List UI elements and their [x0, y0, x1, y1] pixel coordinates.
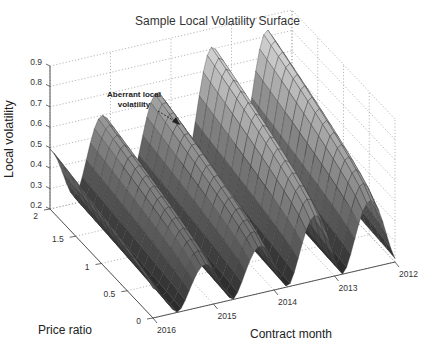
z-axis-label: Local volatility — [2, 100, 16, 178]
y-tick-mark — [70, 236, 76, 237]
z-tick-label: 0.3 — [30, 180, 42, 190]
y-tick-label: 1 — [85, 262, 90, 272]
z-tick-label: 0.5 — [30, 139, 42, 149]
y-tick-mark — [96, 264, 102, 265]
z-tick-label: 0.7 — [30, 98, 42, 108]
chart-title: Sample Local Volatility Surface — [0, 14, 435, 28]
y-tick-label: 1.5 — [52, 234, 64, 244]
x-tick-mark — [214, 304, 218, 309]
surface-patch — [384, 239, 395, 259]
annotation-line-1: Aberrant local — [95, 90, 173, 100]
x-tick-mark — [335, 276, 339, 281]
annotation-line-2: volatility — [95, 100, 173, 110]
x-tick-label: 2016 — [157, 325, 176, 335]
y-tick-label: 0.5 — [103, 289, 115, 299]
x-tick-mark — [274, 290, 278, 295]
z-tick-label: 0.2 — [30, 200, 42, 210]
y-tick-mark — [44, 209, 50, 210]
y-tick-label: 0 — [136, 316, 141, 326]
z-tick-mark — [46, 187, 50, 189]
z-tick-label: 0.4 — [30, 159, 42, 169]
y-tick-mark — [121, 291, 127, 292]
z-tick-label: 0.9 — [30, 57, 42, 67]
z-tick-mark — [46, 166, 50, 168]
z-tick-label: 0.8 — [30, 77, 42, 87]
surface-plot-canvas: 0.20.30.40.50.60.70.80.900.511.522016201… — [0, 0, 435, 355]
y-tick-mark — [147, 318, 153, 319]
z-tick-mark — [46, 84, 50, 86]
y-axis-label: Price ratio — [38, 323, 92, 337]
x-tick-label: 2013 — [339, 283, 358, 293]
x-tick-label: 2014 — [278, 297, 297, 307]
z-tick-mark — [46, 64, 50, 66]
y-tick-label: 2 — [33, 211, 38, 221]
x-axis-label: Contract month — [250, 327, 332, 341]
x-tick-label: 2012 — [399, 269, 418, 279]
z-tick-mark — [46, 125, 50, 127]
z-tick-label: 0.6 — [30, 118, 42, 128]
z-tick-mark — [46, 105, 50, 107]
x-tick-label: 2015 — [218, 311, 237, 321]
x-tick-mark — [395, 262, 399, 267]
z-tick-mark — [46, 146, 50, 148]
x-tick-mark — [153, 318, 157, 323]
annotation-text: Aberrant local volatility — [95, 90, 173, 110]
